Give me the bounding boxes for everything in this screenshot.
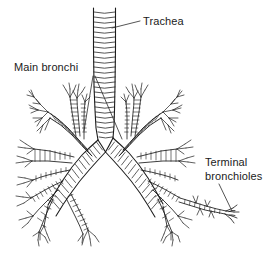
bronchial-tree-illustration <box>0 0 277 258</box>
label-terminal-bronchioles-line2: bronchioles <box>205 169 262 183</box>
label-terminal-bronchioles: Terminal bronchioles <box>205 155 262 183</box>
label-main-bronchi: Main bronchi <box>14 61 78 74</box>
label-terminal-bronchioles-line1: Terminal <box>205 156 247 168</box>
bronchial-tree-figure: Trachea Main bronchi Terminal bronchiole… <box>0 0 277 258</box>
label-trachea: Trachea <box>143 15 184 28</box>
